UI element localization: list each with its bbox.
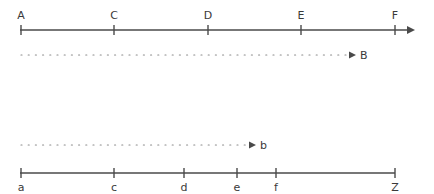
tick-label: d xyxy=(181,181,188,194)
top-dotted-arrow: B xyxy=(21,49,368,62)
tick-label: e xyxy=(234,181,241,194)
tick-label: f xyxy=(274,181,279,194)
arrow-label: B xyxy=(360,49,368,62)
tick-label: c xyxy=(111,181,117,194)
tick-label: E xyxy=(298,9,305,22)
tick-label: Z xyxy=(391,181,399,194)
number-line-diagram: ACDEF B b acdefZ xyxy=(0,0,434,194)
top-axis: ACDEF xyxy=(17,9,415,35)
tick-label: C xyxy=(110,9,118,22)
tick-label: F xyxy=(392,9,398,22)
arrowhead-icon xyxy=(407,26,415,34)
bottom-axis: acdefZ xyxy=(18,168,400,194)
arrowhead-icon xyxy=(249,142,256,149)
arrow-label: b xyxy=(260,139,267,152)
tick-label: a xyxy=(18,181,25,194)
arrowhead-icon xyxy=(349,52,356,59)
bottom-dotted-arrow: b xyxy=(21,139,267,152)
tick-label: D xyxy=(204,9,212,22)
tick-label: A xyxy=(17,9,25,22)
